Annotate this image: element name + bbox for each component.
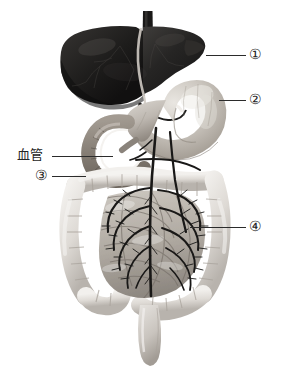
rectum-organ xyxy=(138,305,161,366)
blood-vessel-label: 血管 xyxy=(17,148,43,161)
digestive-system-figure xyxy=(0,0,287,377)
small-intestine-organ xyxy=(92,182,214,302)
callout-label-3: ③ xyxy=(35,169,48,183)
callout-label-4: ④ xyxy=(249,220,262,234)
callout-label-2: ② xyxy=(249,93,262,107)
callout-label-1: ① xyxy=(249,48,262,62)
